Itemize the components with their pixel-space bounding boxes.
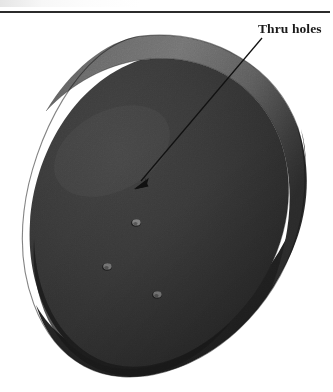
leader-line <box>141 38 262 181</box>
figure-root: Thru holes <box>0 0 333 392</box>
leader-line-svg <box>0 0 333 392</box>
